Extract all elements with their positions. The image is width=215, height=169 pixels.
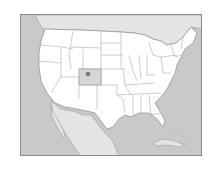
map-frame bbox=[20, 14, 202, 156]
location-marker-icon bbox=[86, 72, 91, 77]
us-locator-map bbox=[21, 15, 202, 156]
colorado-highlight bbox=[79, 69, 101, 85]
